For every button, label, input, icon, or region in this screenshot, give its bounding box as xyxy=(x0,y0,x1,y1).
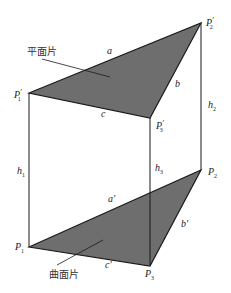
edge-label-c: c xyxy=(101,108,106,119)
edge-label-a: a xyxy=(107,45,112,56)
edge-label-c-prime: c′ xyxy=(105,259,112,270)
vertex-label-p1-prime: P′1 xyxy=(13,88,22,102)
edge-label-b-prime: b′ xyxy=(181,218,189,229)
plane-patch-triangle xyxy=(29,23,201,118)
edge-label-a-prime: a′ xyxy=(108,193,116,204)
vertex-label-p2: P2 xyxy=(207,166,217,179)
height-label-h3: h3 xyxy=(155,162,163,175)
curved-patch-triangle xyxy=(29,170,201,266)
plane-patch-label: 平面片 xyxy=(27,45,57,57)
vertex-label-p3-prime: P′3 xyxy=(155,119,164,133)
height-label-h2: h2 xyxy=(208,99,216,112)
vertex-label-p3: P3 xyxy=(144,268,154,281)
prism-diagram: 平面片 曲面片 P′1 P′2 P′3 P1 P2 P3 a b c a′ b′… xyxy=(0,0,231,293)
vertex-label-p2-prime: P′2 xyxy=(205,16,214,30)
curved-patch-label: 曲面片 xyxy=(49,268,79,280)
edge-label-b: b xyxy=(175,78,180,89)
vertex-label-p1: P1 xyxy=(14,241,24,254)
height-label-h1: h1 xyxy=(17,165,25,178)
